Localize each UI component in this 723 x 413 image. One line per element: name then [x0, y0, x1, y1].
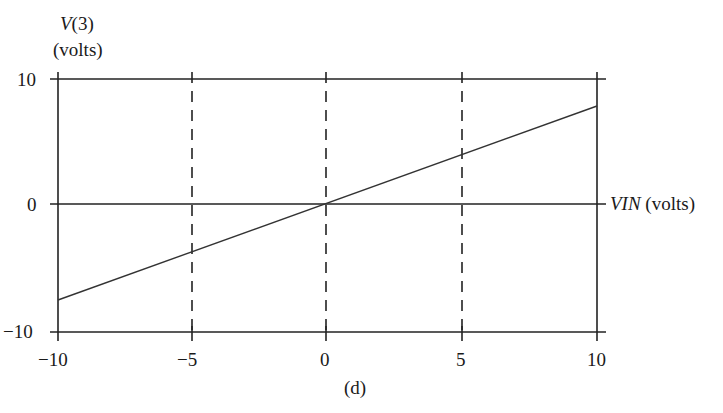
y-axis-label: V(3): [60, 14, 94, 33]
xtick-neg5: −5: [177, 350, 197, 369]
ytick-0: 0: [27, 195, 37, 214]
x-axis-var: VIN: [610, 193, 641, 214]
y-axis-unit: (volts): [53, 40, 103, 59]
y-axis-var: V: [60, 13, 72, 34]
figure-caption: (d): [344, 378, 366, 397]
xtick-5: 5: [456, 350, 466, 369]
series-line-v3: [58, 106, 597, 300]
ytick-10: 10: [17, 70, 36, 89]
x-axis-unit: (volts): [645, 193, 695, 214]
xtick-neg10: −10: [38, 350, 68, 369]
ytick-neg10: −10: [3, 322, 33, 341]
x-axis-label: VIN (volts): [610, 194, 695, 213]
xtick-0: 0: [320, 350, 330, 369]
y-axis-arg: (3): [72, 13, 94, 34]
xtick-10: 10: [587, 350, 606, 369]
